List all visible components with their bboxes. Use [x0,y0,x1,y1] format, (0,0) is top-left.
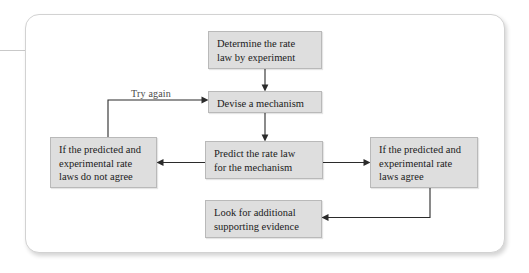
node-determine-line-2: law by experiment [217,51,313,65]
page-rule-divider [0,50,28,51]
node-rate-laws-do-not-agree[interactable]: If the predicted and experimental rate l… [50,137,157,188]
node-disagree-line-1: If the predicted and [59,143,148,157]
node-determine-line-1: Determine the rate [217,37,313,51]
node-predict-rate-law[interactable]: Predict the rate law for the mechanism [205,141,323,179]
edge-label-try-again: Try again [131,88,171,99]
node-agree-line-2: experimental rate [379,157,469,171]
node-look-for-evidence[interactable]: Look for additional supporting evidence [205,200,322,238]
node-agree-line-3: laws agree [379,170,469,184]
node-determine-rate-law[interactable]: Determine the rate law by experiment [208,31,322,69]
node-predict-line-2: for the mechanism [214,161,314,175]
node-agree-line-1: If the predicted and [379,143,469,157]
node-devise-mechanism[interactable]: Devise a mechanism [208,91,322,113]
flowchart-figure: Determine the rate law by experiment Dev… [0,0,529,273]
node-look-line-2: supporting evidence [214,220,313,234]
node-disagree-line-2: experimental rate [59,157,148,171]
node-rate-laws-agree[interactable]: If the predicted and experimental rate l… [370,137,478,188]
node-predict-line-1: Predict the rate law [214,147,314,161]
node-disagree-line-3: laws do not agree [59,170,148,184]
node-look-line-1: Look for additional [214,206,313,220]
node-devise-line-1: Devise a mechanism [217,97,313,111]
